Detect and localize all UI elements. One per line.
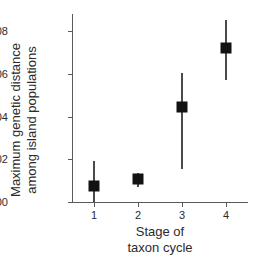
- y-tick-label-0: 0.00: [0, 197, 8, 208]
- y-axis-line: [72, 14, 73, 202]
- y-tick-3: [68, 74, 72, 75]
- data-point-2: [177, 101, 188, 112]
- x-axis-title-line-1: Stage of: [72, 224, 248, 240]
- x-tick-1: [138, 203, 139, 207]
- x-tick-label-2: 3: [172, 210, 192, 221]
- genetic-distance-scatter-chart: 0.000.020.040.060.08 1234 Stage of taxon…: [0, 0, 261, 264]
- plot-area: [72, 14, 248, 202]
- x-axis-title: Stage of taxon cycle: [72, 224, 248, 256]
- y-tick-label-3: 0.06: [0, 69, 8, 80]
- y-tick-label-2: 0.04: [0, 112, 8, 123]
- data-point-0: [89, 181, 100, 192]
- x-tick-2: [182, 203, 183, 207]
- x-tick-3: [226, 203, 227, 207]
- y-tick-2: [68, 117, 72, 118]
- y-axis-title-line-1: Maximum genetic distance: [8, 22, 24, 218]
- error-bar-2: [181, 73, 183, 169]
- x-tick-label-1: 2: [128, 210, 148, 221]
- y-tick-label-4: 0.08: [0, 26, 8, 37]
- y-axis-title-line-2: among island populations: [24, 22, 40, 218]
- x-tick-0: [94, 203, 95, 207]
- y-tick-1: [68, 159, 72, 160]
- y-axis-title: Maximum genetic distance among island po…: [8, 22, 40, 218]
- x-tick-label-0: 1: [84, 210, 104, 221]
- x-axis-title-line-2: taxon cycle: [72, 240, 248, 256]
- y-tick-0: [68, 202, 72, 203]
- x-tick-label-3: 4: [216, 210, 236, 221]
- x-axis-line: [72, 202, 248, 203]
- data-point-3: [221, 43, 232, 54]
- data-point-1: [133, 173, 144, 184]
- y-tick-4: [68, 31, 72, 32]
- y-tick-label-1: 0.02: [0, 154, 8, 165]
